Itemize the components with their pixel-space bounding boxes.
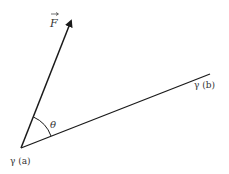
force-vector-arrow: [21, 21, 71, 148]
angle-label: θ: [50, 119, 56, 130]
angle-arc: [34, 117, 52, 136]
force-label: F: [49, 13, 59, 31]
start-point-label: γ (a): [10, 156, 31, 166]
force-angle-diagram: F θ γ (a) γ (b): [0, 0, 229, 174]
end-point-label: γ (b): [194, 80, 215, 90]
displacement-line: [21, 74, 210, 148]
force-label-text: F: [49, 17, 58, 30]
